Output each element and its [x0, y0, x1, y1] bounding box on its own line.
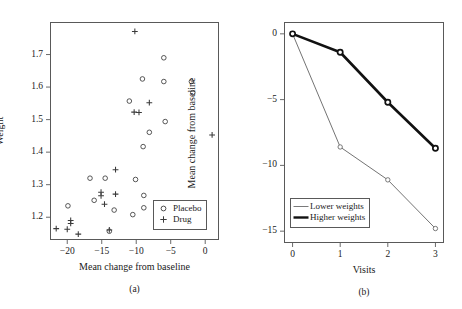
legend-label-placebo: Placebo: [173, 203, 202, 214]
legend-item-lower-weights: Lower weights: [295, 201, 365, 212]
x-axis-title-b: Visits: [353, 265, 376, 275]
tick-label: −20: [60, 247, 75, 257]
tick-label: 1: [338, 250, 343, 260]
tick-label: 0: [272, 29, 277, 39]
y-axis-title-a: Weight: [0, 117, 5, 146]
x-axis-title-a: Mean change from baseline: [79, 262, 190, 272]
panel-caption-a: (a): [129, 284, 140, 294]
tick-label: 1.7: [31, 50, 43, 60]
legend-label-higher-weights: Higher weights: [310, 212, 365, 223]
panel-caption-b: (b): [358, 287, 369, 297]
legend-label-drug: Drug: [173, 214, 192, 225]
plus-marker-icon: [158, 215, 169, 224]
tick-label: −10: [262, 161, 277, 171]
tick-label: 1.6: [31, 82, 43, 92]
tick-label: 1.5: [31, 115, 43, 125]
figure-container: 1.21.31.41.51.61.7−20−15−10−50 Mean chan…: [0, 0, 462, 309]
legend-b: Lower weights Higher weights: [290, 198, 370, 228]
tick-label: 2: [385, 250, 390, 260]
tick-label: −5: [166, 247, 176, 257]
tick-label: −15: [262, 226, 277, 236]
tick-label: 1.3: [31, 180, 43, 190]
tick-label: 1.2: [31, 212, 43, 222]
legend-item-placebo: Placebo: [158, 203, 202, 214]
tick-label: −15: [94, 247, 109, 257]
tick-label: 3: [433, 250, 438, 260]
tick-label: −5: [267, 95, 277, 105]
legend-a: Placebo Drug: [153, 200, 207, 230]
tick-label: 0: [290, 250, 295, 260]
legend-item-drug: Drug: [158, 214, 202, 225]
tick-label: 1.4: [31, 147, 43, 157]
tick-label: 0: [203, 247, 208, 257]
legend-label-lower-weights: Lower weights: [310, 201, 364, 212]
circle-marker-icon: [158, 204, 169, 213]
legend-item-higher-weights: Higher weights: [295, 212, 365, 223]
line-plot-b: [231, 0, 462, 309]
tick-label: −10: [129, 247, 144, 257]
thick-line-icon: [295, 213, 306, 222]
thin-line-icon: [295, 202, 306, 211]
panel-b: 0−5−10−150123 Visits Mean change from ba…: [231, 0, 462, 309]
y-axis-title-b: Mean change from baseline: [187, 77, 197, 188]
